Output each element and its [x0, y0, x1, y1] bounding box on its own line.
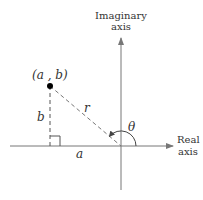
imaginary-axis-label-2: axis	[111, 21, 131, 32]
point-a-b	[47, 83, 53, 89]
polar-complex-diagram: (a , b) b a r θ Imaginary axis Real axis	[0, 0, 203, 200]
leg-b-label: b	[37, 110, 45, 124]
imaginary-axis-label-1: Imaginary	[95, 10, 147, 21]
point-label: (a , b)	[32, 68, 68, 82]
angle-theta-label: θ	[128, 120, 136, 134]
hypotenuse-r-label: r	[84, 101, 91, 115]
hypotenuse-r	[50, 86, 121, 146]
real-axis-label-2: axis	[178, 146, 198, 157]
real-axis-label-1: Real	[177, 134, 200, 145]
leg-a-label: a	[76, 147, 83, 161]
right-angle-marker	[50, 136, 60, 146]
